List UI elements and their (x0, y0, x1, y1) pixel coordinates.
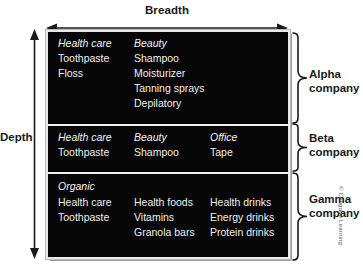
beta-column-2: Beauty Shampoo (134, 130, 210, 160)
product-item: Depilatory (134, 96, 210, 111)
company-word: company (309, 81, 360, 95)
product-item: Tape (210, 145, 286, 160)
category-label: Health care (58, 130, 134, 145)
company-word: company (309, 145, 360, 159)
product-item: Protein drinks (210, 225, 286, 240)
company-label-beta: Beta company (309, 131, 360, 159)
alpha-column-2: Beauty Shampoo Moisturizer Tanning spray… (134, 36, 210, 111)
product-item: Granola bars (134, 225, 210, 240)
breadth-axis-label: Breadth (48, 4, 286, 16)
product-mix-diagram: Breadth Depth Health care Toothpaste Flo… (0, 0, 363, 274)
gamma-column-2: Health foods Vitamins Granola bars (134, 195, 210, 240)
brace-gamma-icon (291, 172, 309, 261)
product-item: Toothpaste (58, 51, 134, 66)
beta-column-3: Office Tape (210, 130, 286, 160)
product-item: Floss (58, 66, 134, 81)
product-item: Toothpaste (58, 145, 134, 160)
product-item: Health care (58, 195, 134, 210)
company-label-gamma: Gamma company (309, 192, 360, 220)
alpha-column-1: Health care Toothpaste Floss (58, 36, 134, 111)
product-item: Moisturizer (134, 66, 210, 81)
company-name: Alpha (309, 67, 360, 81)
category-label: Office (210, 130, 286, 145)
gamma-column-1: Health care Toothpaste (58, 195, 134, 240)
product-item: Toothpaste (58, 210, 134, 225)
category-label: Beauty (134, 130, 210, 145)
product-item: Energy drinks (210, 210, 286, 225)
product-item: Vitamins (134, 210, 210, 225)
company-word: company (309, 206, 360, 220)
alpha-columns: Health care Toothpaste Floss Beauty Sham… (58, 36, 286, 111)
company-name: Beta (309, 131, 360, 145)
brace-beta-icon (291, 123, 309, 172)
breadth-arrow-icon (46, 19, 288, 29)
depth-axis-label: Depth (0, 131, 32, 143)
brace-alpha-icon (291, 32, 309, 124)
product-item: Health foods (134, 195, 210, 210)
category-label: Health care (58, 36, 134, 51)
product-matrix-box: Health care Toothpaste Floss Beauty Sham… (46, 30, 290, 259)
beta-column-1: Health care Toothpaste (58, 130, 134, 160)
company-name: Gamma (309, 192, 360, 206)
product-item: Shampoo (134, 51, 210, 66)
matrix-section-gamma: Organic Health care Toothpaste Health fo… (48, 172, 288, 259)
gamma-column-3: Health drinks Energy drinks Protein drin… (210, 195, 286, 240)
matrix-section-alpha: Health care Toothpaste Floss Beauty Sham… (48, 32, 288, 124)
product-item: Health drinks (210, 195, 286, 210)
copyright-credit: © Cengage Learning (338, 186, 344, 272)
beta-columns: Health care Toothpaste Beauty Shampoo Of… (58, 130, 286, 160)
product-item: Tanning sprays (134, 81, 210, 96)
matrix-section-beta: Health care Toothpaste Beauty Shampoo Of… (48, 124, 288, 172)
depth-arrow-icon (29, 29, 40, 259)
category-label: Beauty (134, 36, 210, 51)
product-item: Shampoo (134, 145, 210, 160)
organic-group-label: Organic (58, 180, 95, 192)
company-label-alpha: Alpha company (309, 67, 360, 95)
gamma-columns: Health care Toothpaste Health foods Vita… (58, 195, 286, 240)
